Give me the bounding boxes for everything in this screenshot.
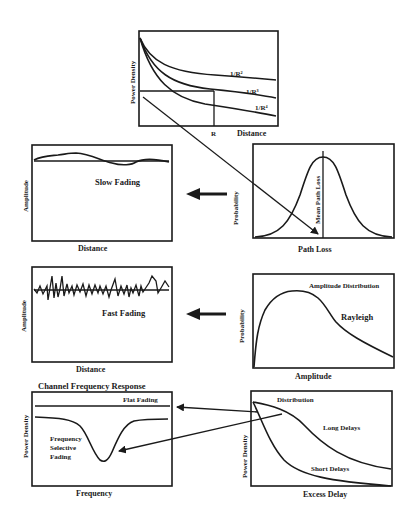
arrow-to-flat-fading [177,407,258,412]
slow-fading-curve [34,153,169,165]
x-axis-label: Excess Delay [303,490,347,499]
x-axis-label: Path Loss [298,245,332,254]
y-axis-label: Power Density [241,434,249,478]
curve-r2 [140,38,276,80]
annotation-rayleigh: Rayleigh [341,312,373,322]
x-axis-label: Amplitude [295,372,332,381]
rayleigh-curve [254,291,393,367]
y-axis-label: Probability [232,191,240,225]
curve-label-r4: 1/R⁴ [255,104,269,112]
y-axis-label: Amplitude [20,300,28,332]
long-delays-curve [253,402,391,469]
x-axis-label: Frequency [76,489,112,498]
y-axis-label: Power Density [129,60,137,104]
curve-label-r2: 1/R² [230,70,243,78]
annotation-mean-path-loss: Mean Path Loss [314,176,322,225]
annotation-flat-fading: Flat Fading [123,396,158,404]
y-axis-label: Power Density [22,414,30,458]
annotation-selective-3: Fading [50,453,72,461]
annotation-short-delays: Short Delays [311,465,350,473]
x-axis-label: Distance [78,244,108,253]
panel-amplitude-distribution: Amplitude Distribution Rayleigh Amplitud… [238,274,394,381]
y-axis-label: Probability [238,309,246,343]
short-delays-curve [253,402,391,486]
curve-label-r3: 1/R³ [246,88,259,96]
fading-diagram: 1/R² 1/R³ 1/R⁴ R Distance Power Density … [0,0,415,521]
annotation-selective-1: Frequency [50,435,82,443]
x-axis-label: Distance [76,365,106,374]
panel-channel-frequency-response: Channel Frequency Response Flat Fading F… [22,381,172,498]
panel-path-loss-vs-distance: 1/R² 1/R³ 1/R⁴ R Distance Power Density [129,31,278,138]
panel-delay-distribution: Distribution Long Delays Short Delays Ex… [241,391,392,499]
arrow-left-row3 [186,308,226,320]
panel-title-distribution: Distribution [277,396,314,404]
y-axis-label: Amplitude [22,180,30,212]
r-marker-label: R [211,130,217,138]
arrow-left-row2 [186,188,227,200]
panel-title-channel-frequency-response: Channel Frequency Response [38,381,146,391]
annotation-long-delays: Long Delays [323,424,360,432]
annotation-fast-fading: Fast Fading [102,308,146,318]
x-axis-label: Distance [237,129,267,138]
fast-fading-curve [34,276,169,300]
panel-path-loss-distribution: Mean Path Loss Path Loss Probability [232,144,394,254]
panel-fast-fading: Fast Fading Distance Amplitude [20,267,172,374]
annotation-slow-fading: Slow Fading [95,177,141,187]
panel-title-amplitude-distribution: Amplitude Distribution [309,282,379,290]
panel-slow-fading: Slow Fading Distance Amplitude [22,145,172,253]
annotation-selective-2: Selective [50,444,76,452]
